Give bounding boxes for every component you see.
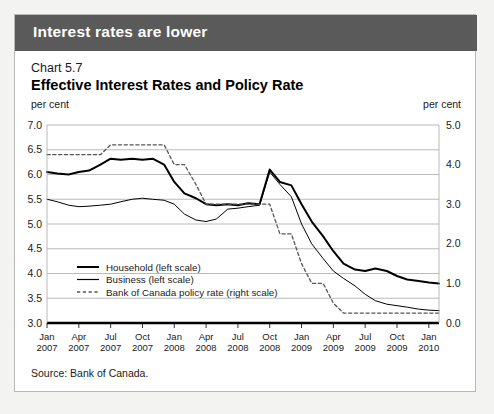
legend-label: Household (left scale) (106, 262, 201, 273)
y-tick-left: 3.0 (27, 317, 42, 329)
chart-legend: Household (left scale)Business (left sca… (77, 262, 278, 298)
x-tick-year: 2010 (418, 342, 439, 353)
x-tick-year: 2007 (36, 342, 57, 353)
y-tick-left: 7.0 (27, 119, 42, 131)
x-tick-year: 2007 (68, 342, 89, 353)
chart-card: Interest rates are lower Chart 5.7 Effec… (14, 14, 476, 392)
y-tick-right: 0.0 (446, 317, 461, 329)
x-tick-year: 2009 (291, 342, 312, 353)
source-note: Source: Bank of Canada. (31, 367, 148, 379)
y-axis-left-labels: 7.06.56.05.55.04.54.03.53.0 (27, 119, 42, 329)
x-tick-month: Jan (294, 331, 309, 342)
x-tick-month: Oct (135, 331, 150, 342)
y-tick-left: 3.5 (27, 292, 42, 304)
y-tick-left: 5.0 (27, 218, 42, 230)
y-tick-left: 6.0 (27, 168, 42, 180)
x-tick-year: 2008 (196, 342, 217, 353)
y-tick-left: 5.5 (27, 193, 42, 205)
y-tick-right: 5.0 (446, 119, 461, 131)
legend-label: Business (left scale) (106, 274, 194, 285)
y-tick-right: 1.0 (446, 277, 461, 289)
x-tick-month: Oct (390, 331, 405, 342)
x-tick-year: 2009 (323, 342, 344, 353)
screenshot-root: Interest rates are lower Chart 5.7 Effec… (0, 0, 494, 414)
x-tick-year: 2008 (227, 342, 248, 353)
x-tick-year: 2009 (355, 342, 376, 353)
x-tick-year: 2008 (164, 342, 185, 353)
x-tick-year: 2008 (259, 342, 280, 353)
y-tick-left: 4.0 (27, 267, 42, 279)
x-tick-month: Oct (262, 331, 277, 342)
x-axis-labels: Jan2007Apr2007Jul2007Oct2007Jan2008Apr20… (36, 331, 439, 353)
x-tick-year: 2007 (100, 342, 121, 353)
x-tick-month: Apr (71, 331, 86, 342)
legend-label: Bank of Canada policy rate (right scale) (106, 287, 278, 298)
x-tick-month: Apr (199, 331, 214, 342)
x-tick-month: Jul (359, 331, 371, 342)
y-tick-left: 6.5 (27, 143, 42, 155)
x-tick-month: Apr (326, 331, 341, 342)
y-tick-right: 4.0 (446, 158, 461, 170)
y-tick-left: 4.5 (27, 242, 42, 254)
x-tick-month: Jan (39, 331, 54, 342)
x-tick-year: 2009 (386, 342, 407, 353)
x-tick-year: 2007 (132, 342, 153, 353)
y-tick-right: 2.0 (446, 237, 461, 249)
x-tick-month: Jan (167, 331, 182, 342)
x-tick-month: Jul (232, 331, 244, 342)
y-tick-right: 3.0 (446, 198, 461, 210)
x-tick-month: Jan (421, 331, 436, 342)
x-tick-month: Jul (105, 331, 117, 342)
line-chart: 7.06.56.05.55.04.54.03.53.0 5.04.03.02.0… (15, 15, 477, 393)
y-axis-right-labels: 5.04.03.02.01.00.0 (446, 119, 461, 329)
